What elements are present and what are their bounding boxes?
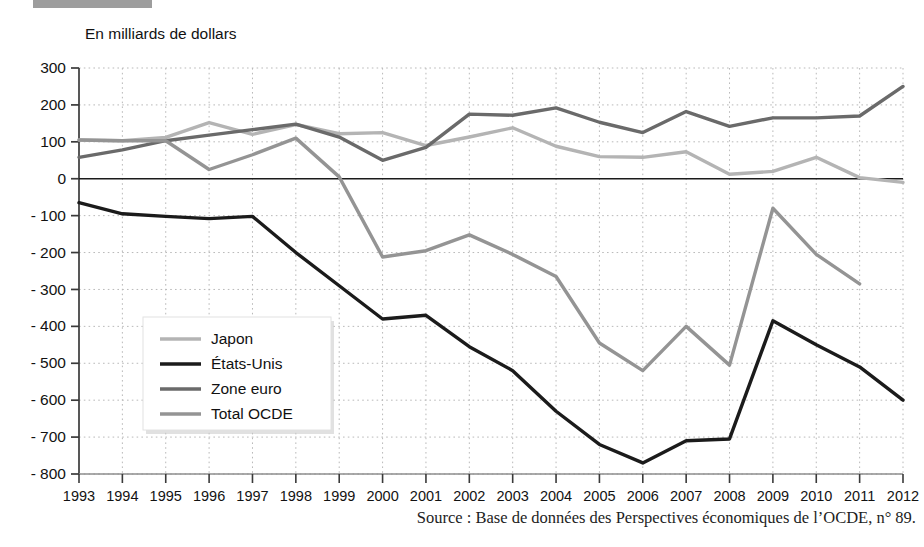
document-badge: DOCUMENT 2 xyxy=(33,0,152,8)
series-line xyxy=(79,123,903,183)
document-title: Solde de la balance courante xyxy=(166,0,406,3)
x-tick-label: 2007 xyxy=(670,488,702,504)
y-tick-label: 300 xyxy=(40,59,66,76)
x-tick-label: 2006 xyxy=(627,488,659,504)
x-tick-label: 2012 xyxy=(887,488,919,504)
x-tick-label: 1994 xyxy=(106,488,138,504)
y-tick-label: - 100 xyxy=(31,207,67,224)
y-tick-label: - 300 xyxy=(31,281,67,298)
chart-page: DOCUMENT 2 Solde de la balance courante … xyxy=(0,0,924,547)
chart-container: En milliards de dollars 3002001000- 100-… xyxy=(0,13,924,508)
x-tick-label: 2011 xyxy=(844,488,875,504)
legend-label: Japon xyxy=(211,330,253,347)
y-tick-label: - 500 xyxy=(31,354,67,371)
y-tick-label: - 600 xyxy=(31,391,67,408)
line-chart-plot: 3002001000- 100- 200- 300- 400- 500- 600… xyxy=(0,13,924,508)
x-tick-label: 1996 xyxy=(193,488,225,504)
y-tick-label: - 700 xyxy=(31,428,67,445)
x-tick-label: 1995 xyxy=(150,488,182,504)
x-tick-label: 1999 xyxy=(323,488,355,504)
x-tick-label: 2010 xyxy=(800,488,832,504)
x-tick-label: 2008 xyxy=(713,488,745,504)
x-tick-label: 1997 xyxy=(236,488,268,504)
y-tick-label: - 800 xyxy=(31,465,67,482)
y-tick-label: 100 xyxy=(40,133,66,150)
legend-label: Total OCDE xyxy=(211,405,293,422)
legend-label: Zone euro xyxy=(211,380,282,397)
x-tick-label: 2003 xyxy=(497,488,529,504)
y-tick-label: - 200 xyxy=(31,244,67,261)
x-tick-label: 2001 xyxy=(410,488,442,504)
source-note: Source : Base de données des Perspective… xyxy=(0,508,924,528)
x-tick-label: 1998 xyxy=(280,488,312,504)
y-tick-label: 200 xyxy=(40,96,66,113)
document-header-strip: DOCUMENT 2 Solde de la balance courante xyxy=(0,0,924,13)
y-tick-label: - 400 xyxy=(31,317,67,334)
x-tick-label: 2009 xyxy=(757,488,789,504)
x-tick-label: 2002 xyxy=(453,488,485,504)
x-tick-label: 2005 xyxy=(583,488,615,504)
x-tick-label: 1993 xyxy=(63,488,95,504)
legend-label: États-Unis xyxy=(211,355,283,372)
x-tick-label: 2000 xyxy=(366,488,398,504)
y-tick-label: 0 xyxy=(57,170,66,187)
x-tick-label: 2004 xyxy=(540,488,572,504)
